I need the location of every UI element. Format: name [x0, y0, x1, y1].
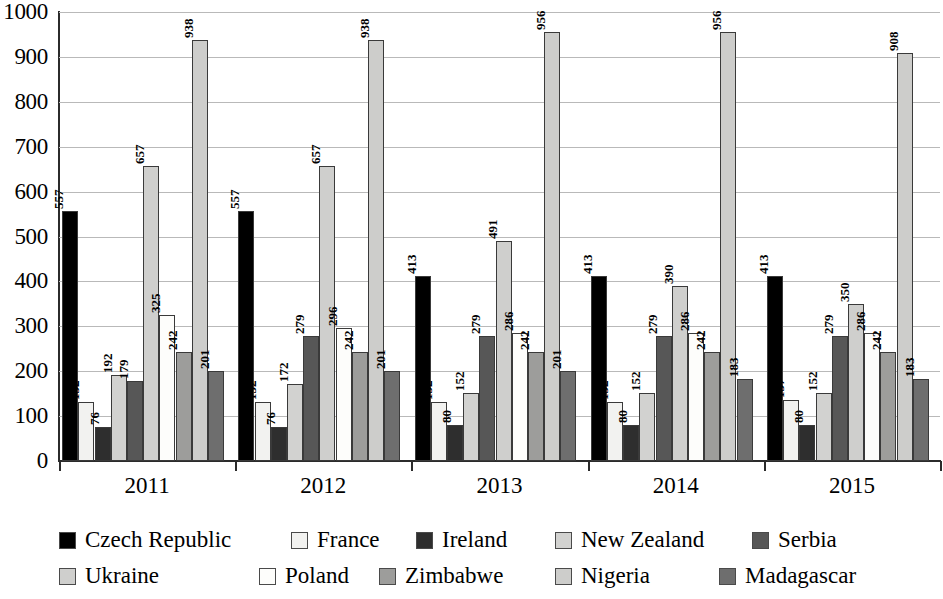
bar: 152 — [639, 393, 655, 461]
bar: 76 — [95, 427, 111, 461]
bar-value-label: 132 — [421, 380, 434, 403]
legend-item-poland[interactable]: Poland — [259, 561, 349, 591]
bar: 152 — [463, 393, 479, 461]
legend-swatch-icon — [555, 568, 572, 585]
bar-value-label: 956 — [534, 10, 547, 33]
bar: 279 — [303, 336, 319, 461]
y-axis-tick-label: 600 — [0, 180, 48, 203]
bar-value-label: 390 — [662, 264, 675, 287]
bar: 201 — [560, 371, 576, 461]
bar-value-label: 557 — [228, 189, 241, 212]
bar: 938 — [192, 40, 208, 461]
bar-chart: 5571327619217965732524293820155713276172… — [0, 0, 943, 599]
bar: 956 — [720, 32, 736, 461]
bar: 557 — [238, 211, 254, 461]
bar-value-label: 137 — [773, 378, 786, 401]
bar-value-label: 413 — [404, 254, 417, 277]
bar: 279 — [832, 336, 848, 461]
legend-swatch-icon — [719, 568, 736, 585]
bar-value-label: 279 — [469, 314, 482, 337]
bar-value-label: 201 — [550, 349, 563, 372]
bar-value-label: 413 — [581, 254, 594, 277]
bar: 132 — [255, 402, 271, 461]
bar-value-label: 286 — [854, 311, 867, 334]
bar-value-label: 279 — [293, 314, 306, 337]
y-axis-tick-label: 700 — [0, 135, 48, 158]
legend-item-ukraine[interactable]: Ukraine — [59, 561, 159, 591]
bar: 557 — [62, 211, 78, 461]
bar-value-label: 132 — [244, 380, 257, 403]
bar-value-label: 183 — [726, 357, 739, 380]
bar: 76 — [271, 427, 287, 461]
bar-value-label: 201 — [374, 349, 387, 372]
bar-value-label: 242 — [870, 331, 883, 354]
bar-value-label: 152 — [453, 371, 466, 394]
y-axis-tick-label: 100 — [0, 404, 48, 427]
x-axis-tick — [411, 461, 413, 471]
x-axis-tick — [940, 461, 942, 471]
bar: 137 — [783, 400, 799, 462]
bar: 413 — [415, 276, 431, 461]
bar: 413 — [591, 276, 607, 461]
legend-swatch-icon — [259, 568, 276, 585]
bar: 80 — [623, 425, 639, 461]
y-axis-tick-label: 800 — [0, 90, 48, 113]
bar-value-label: 132 — [68, 380, 81, 403]
bar-value-label: 286 — [502, 311, 515, 334]
x-axis-tick — [59, 461, 61, 471]
x-axis-tick — [764, 461, 766, 471]
legend-swatch-icon — [555, 532, 572, 549]
bar-value-label: 76 — [88, 412, 101, 428]
legend-label: France — [317, 527, 380, 553]
bar: 179 — [127, 381, 143, 461]
chart-legend: Czech RepublicFranceIrelandNew ZealandSe… — [59, 525, 943, 595]
bar-value-label: 956 — [710, 10, 723, 33]
y-axis-tick-label: 300 — [0, 314, 48, 337]
legend-item-czech-republic[interactable]: Czech Republic — [59, 525, 231, 555]
legend-swatch-icon — [59, 532, 76, 549]
bar: 242 — [704, 352, 720, 461]
bar: 956 — [544, 32, 560, 461]
bar: 938 — [368, 40, 384, 461]
bar-value-label: 192 — [101, 353, 114, 376]
legend-item-ireland[interactable]: Ireland — [416, 525, 507, 555]
bar: 491 — [496, 241, 512, 461]
legend-item-serbia[interactable]: Serbia — [752, 525, 837, 555]
bar-value-label: 80 — [616, 410, 629, 426]
legend-label: Ireland — [442, 527, 507, 553]
x-axis-category-label: 2011 — [87, 473, 207, 499]
bar-value-label: 908 — [886, 32, 899, 55]
bar-value-label: 152 — [629, 371, 642, 394]
bar-value-label: 242 — [165, 331, 178, 354]
legend-item-new-zealand[interactable]: New Zealand — [555, 525, 704, 555]
y-axis-tick-label: 200 — [0, 359, 48, 382]
bar: 80 — [447, 425, 463, 461]
bar: 242 — [880, 352, 896, 461]
bar: 413 — [767, 276, 783, 461]
legend-swatch-icon — [379, 568, 396, 585]
bar: 201 — [208, 371, 224, 461]
bar: 908 — [897, 53, 913, 461]
legend-item-madagascar[interactable]: Madagascar — [719, 561, 856, 591]
legend-item-france[interactable]: France — [291, 525, 380, 555]
x-axis-tick — [235, 461, 237, 471]
bar-value-label: 152 — [805, 371, 818, 394]
bar: 172 — [287, 384, 303, 461]
x-axis-category-label: 2012 — [263, 473, 383, 499]
bar-value-label: 286 — [678, 311, 691, 334]
x-axis-category-label: 2014 — [616, 473, 736, 499]
legend-item-zimbabwe[interactable]: Zimbabwe — [379, 561, 503, 591]
bar-value-label: 183 — [903, 357, 916, 380]
legend-swatch-icon — [752, 532, 769, 549]
bar-value-label: 657 — [133, 145, 146, 168]
legend-swatch-icon — [291, 532, 308, 549]
legend-label: Madagascar — [745, 563, 856, 589]
bar-value-label: 76 — [264, 412, 277, 428]
bar: 183 — [913, 379, 929, 461]
bar-value-label: 172 — [277, 362, 290, 385]
bar-value-label: 657 — [309, 145, 322, 168]
legend-swatch-icon — [59, 568, 76, 585]
bar-value-label: 491 — [485, 219, 498, 242]
legend-item-nigeria[interactable]: Nigeria — [555, 561, 650, 591]
bar-value-label: 132 — [597, 380, 610, 403]
